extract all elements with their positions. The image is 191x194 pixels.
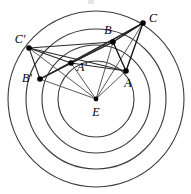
ray-E-to-C: [96, 23, 143, 99]
vertex-label-B: B: [104, 23, 112, 37]
figure-canvas: ABCA′B′C′E: [0, 0, 191, 194]
vertex-dot-C-prime: [26, 45, 32, 51]
vertex-label-C: C: [149, 11, 158, 25]
vertex-dot-A-prime: [68, 60, 74, 66]
vertex-dot-A: [123, 68, 129, 74]
vertex-dot-B-prime: [37, 76, 43, 82]
vertex-label-A: A: [123, 76, 132, 90]
ray-E-to-B-prime: [40, 79, 96, 99]
vertex-label-A-prime: A′: [76, 60, 87, 74]
vertex-label-E: E: [91, 105, 100, 119]
geometry-figure: ABCA′B′C′E: [0, 0, 191, 194]
vertex-dot-B: [110, 39, 116, 45]
vertex-dot-E: [94, 97, 99, 102]
vertex-label-C-prime: C′: [15, 32, 26, 46]
vertex-dot-C: [140, 20, 146, 26]
vertex-label-B-prime: B′: [22, 71, 32, 85]
